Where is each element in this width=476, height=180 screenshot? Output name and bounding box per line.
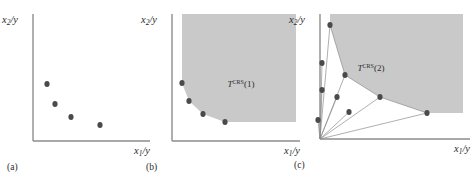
panel-a: x2/yx1/y(a) (1, 14, 150, 173)
region-label-sup-c: CRS (363, 63, 374, 69)
y-axis-label-c-den: /y (296, 14, 305, 25)
region-label-arg-c: (2) (374, 63, 385, 73)
data-point-c-2 (342, 72, 347, 78)
x-axis-label-b-text: x1/y (283, 145, 300, 158)
data-point-b-3 (222, 119, 227, 125)
y-axis-label-a-text: x2/y (1, 14, 18, 27)
data-point-a-2 (68, 114, 73, 120)
data-point-c-4 (334, 94, 339, 100)
x-axis-label-a-den: /y (141, 145, 150, 156)
y-axis-label-b-text: x2/y (140, 14, 157, 27)
data-point-a-1 (52, 101, 57, 107)
data-point-b-2 (200, 111, 205, 117)
data-point-c-7 (424, 110, 429, 116)
panel-caption-b: (b) (146, 162, 157, 173)
data-point-c-6 (346, 109, 351, 115)
panel-b: TCRS(1)x2/yx1/y(b) (140, 14, 300, 173)
multi-panel-figure: x2/yx1/y(a)TCRS(1)x2/yx1/y(b)TCRS(2)x2/y… (0, 0, 476, 180)
data-point-c-8 (315, 117, 320, 123)
y-axis-label-b-den: /y (148, 14, 157, 25)
ray-c-5 (320, 97, 380, 139)
region-label-arg-b: (1) (244, 79, 255, 89)
x-axis-label-c: x1/y (453, 143, 470, 156)
data-point-a-0 (44, 81, 49, 87)
data-point-c-0 (327, 22, 332, 28)
data-point-c-3 (319, 87, 324, 93)
region-label-sup-b: CRS (233, 79, 244, 85)
ray-c-7 (320, 113, 427, 139)
data-point-c-5 (377, 94, 382, 100)
data-point-c-1 (319, 60, 324, 66)
data-point-b-1 (186, 98, 191, 104)
panel-c: TCRS(2)x2/yx1/y(c) (288, 14, 470, 171)
figure-container: x2/yx1/y(a)TCRS(1)x2/yx1/y(b)TCRS(2)x2/y… (0, 0, 476, 180)
x-axis-label-b-den: /y (291, 145, 300, 156)
ray-c-6 (320, 112, 349, 139)
x-axis-label-a: x1/y (133, 145, 150, 158)
region-b (182, 14, 296, 122)
panel-caption-a: (a) (7, 162, 18, 173)
x-axis-label-a-text: x1/y (133, 145, 150, 158)
y-axis-label-a: x2/y (1, 14, 18, 27)
region-c (330, 14, 463, 113)
y-axis-label-a-den: /y (9, 14, 18, 25)
panel-caption-c: (c) (294, 160, 305, 171)
x-axis-label-b: x1/y (283, 145, 300, 158)
data-point-b-0 (179, 80, 184, 86)
data-point-a-3 (97, 122, 102, 128)
y-axis-label-b: x2/y (140, 14, 157, 27)
x-axis-label-c-den: /y (461, 143, 470, 154)
x-axis-label-c-text: x1/y (453, 143, 470, 156)
